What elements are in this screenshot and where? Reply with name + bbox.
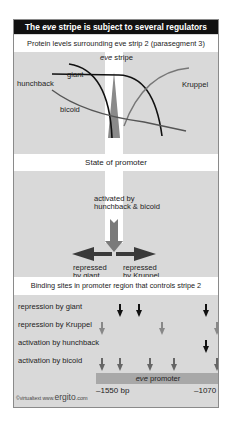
row-label-kruppel: repression by Kruppel [18,320,92,329]
coord-right: –1070 [194,386,216,395]
binding-site-arrow-icon [117,304,123,317]
binding-site-arrow-icon [214,322,219,335]
binding-sites-heading: Binding sites in promoter region that co… [14,277,218,295]
binding-site-arrow-icon [159,322,165,335]
footer-credit: ©virtualtext www.ergito.com [16,392,88,402]
binding-site-arrow-icon [214,358,219,371]
eve-promoter-bar: eve promoter [96,373,219,384]
kruppel-curve [124,68,189,126]
state-of-promoter-heading: State of promoter [14,154,218,171]
binding-site-arrow-icon [99,322,105,335]
eve-stripe-label: eve stripe [100,53,133,62]
hunchback-label: hunchback [17,79,54,88]
giant-label: giant [67,70,83,79]
binding-site-arrow-icon [203,340,209,353]
bicoid-label: bicoid [60,105,80,114]
binding-site-arrow-icon [171,358,177,371]
binding-site-arrow-icon [117,358,123,371]
activation-arrow [105,219,123,252]
binding-site-arrow-icon [99,358,105,371]
repress-right-arrow [116,247,156,261]
binding-site-arrow-icon [203,304,209,317]
binding-site-arrow-icon [136,304,142,317]
row-label-hunchback: activation by hunchback [18,338,99,347]
kruppel-label: Kruppel [182,80,208,89]
binding-site-arrow-icon [147,358,153,371]
promoter-state-arrows [14,205,219,265]
row-label-giant: repression by giant [18,302,82,311]
repress-left-arrow [72,247,112,261]
coord-left: –1550 bp [96,386,129,395]
diagram-frame: The eve stripe is subject to several reg… [13,19,219,408]
row-label-bicoid: activation by bicoid [18,356,82,365]
protein-levels-heading: Protein levels surrounding eve strip 2 (… [14,35,218,52]
diagram-title: The eve stripe is subject to several reg… [14,20,218,34]
